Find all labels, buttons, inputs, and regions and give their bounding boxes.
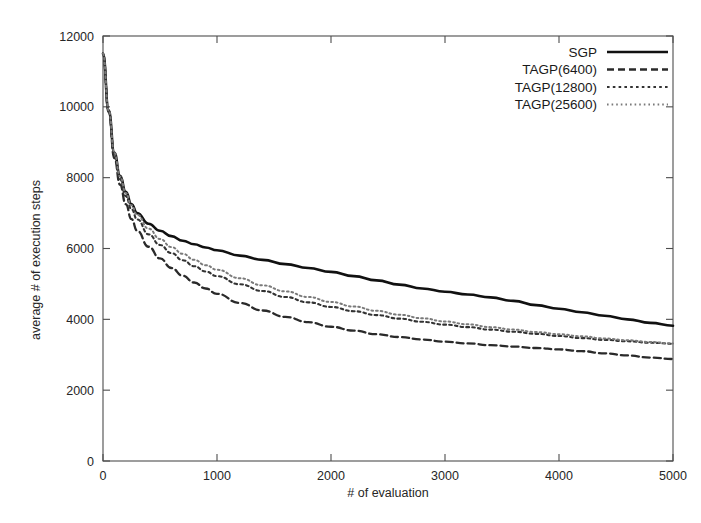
series-line-0 — [103, 54, 673, 326]
y-tick-label: 12000 — [59, 30, 94, 44]
x-tick-label: 5000 — [659, 469, 687, 483]
y-tick-label: 6000 — [66, 242, 94, 256]
chart-legend: SGPTAGP(6400)TAGP(12800)TAGP(25600) — [515, 45, 668, 113]
legend-label-3: TAGP(25600) — [515, 97, 597, 112]
y-axis-title: average # of execution steps — [29, 180, 43, 340]
y-tick-label: 0 — [87, 455, 94, 469]
line-chart: 020004000600080001000012000 010002000300… — [0, 0, 701, 523]
legend-label-2: TAGP(12800) — [515, 80, 597, 95]
y-tick-label: 4000 — [66, 313, 94, 327]
x-tick-label: 0 — [100, 469, 107, 483]
x-axis-title: # of evaluation — [347, 486, 428, 500]
x-tick-label: 1000 — [203, 469, 231, 483]
legend-label-1: TAGP(6400) — [522, 62, 597, 77]
x-tick-label: 4000 — [545, 469, 573, 483]
x-tick-label: 2000 — [317, 469, 345, 483]
y-tick-label: 8000 — [66, 171, 94, 185]
y-tick-label: 10000 — [59, 100, 94, 114]
x-tick-label: 3000 — [431, 469, 459, 483]
y-tick-label: 2000 — [66, 384, 94, 398]
chart-figure: 020004000600080001000012000 010002000300… — [0, 0, 701, 523]
y-axis-tick-labels: 020004000600080001000012000 — [59, 30, 94, 469]
legend-label-0: SGP — [568, 45, 597, 60]
x-axis-tick-labels: 010002000300040005000 — [100, 469, 687, 483]
